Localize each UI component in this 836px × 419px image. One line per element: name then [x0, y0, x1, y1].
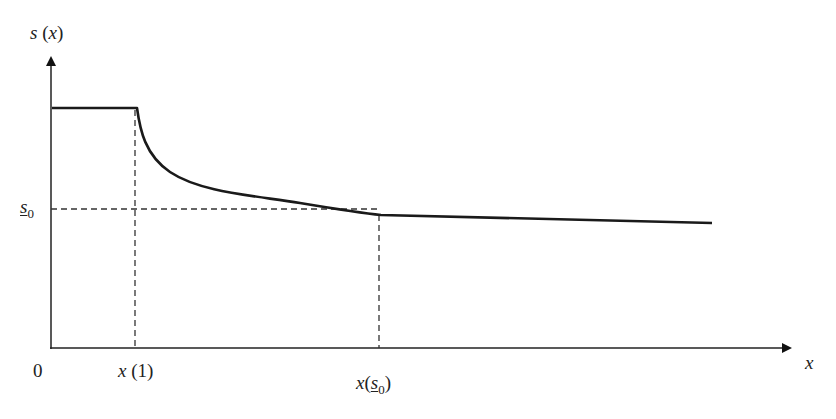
y-label-fn: s — [30, 22, 37, 43]
s0-sub: 0 — [27, 206, 34, 221]
x-axis-label: x — [805, 352, 813, 374]
y-axis-label: s (x) — [30, 22, 63, 44]
x1-arg: 1 — [138, 360, 148, 381]
tick-label-x1: x (1) — [118, 360, 153, 382]
function-curve — [52, 108, 712, 223]
tick-label-xs0: x(s0) — [356, 372, 391, 398]
y-label-arg: x — [48, 22, 56, 43]
plot-canvas — [0, 0, 836, 419]
s0-reference-label: s0 — [20, 196, 34, 222]
origin-label: 0 — [33, 360, 43, 382]
x1-fn: x — [118, 360, 126, 381]
